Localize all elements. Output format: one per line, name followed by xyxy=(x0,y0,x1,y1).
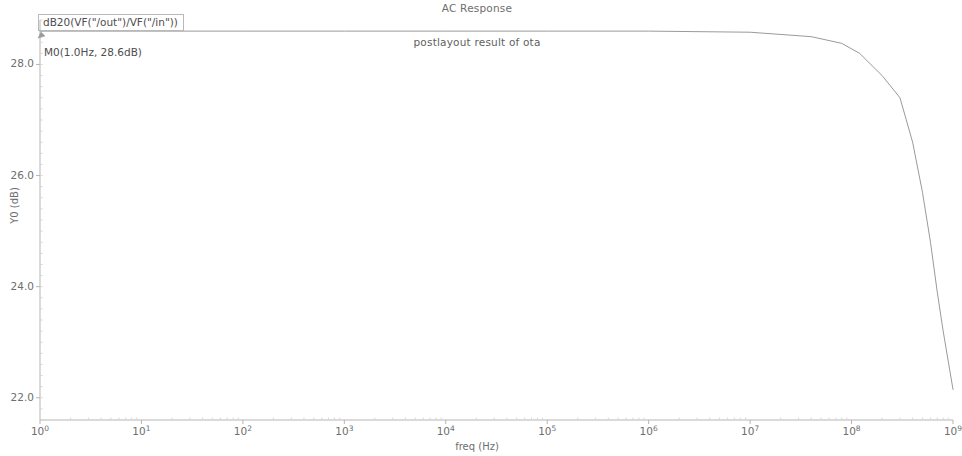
x-axis-title: freq (Hz) xyxy=(0,441,954,452)
x-tick-exponent: 6 xyxy=(653,424,658,433)
x-tick-mantissa: 10 xyxy=(437,425,450,437)
trace-line[interactable] xyxy=(40,31,953,389)
x-tick-exponent: 4 xyxy=(450,424,455,433)
x-tick-mantissa: 10 xyxy=(132,425,145,437)
x-tick-label: 106 xyxy=(640,425,658,437)
x-tick-label: 107 xyxy=(741,425,759,437)
x-tick-label: 103 xyxy=(335,425,353,437)
marker-m0-label[interactable]: M0(1.0Hz, 28.6dB) xyxy=(44,46,142,58)
x-tick-label: 101 xyxy=(132,425,150,437)
legend-label: dB20(VF("/out")/VF("/in")) xyxy=(43,16,178,28)
x-tick-mantissa: 10 xyxy=(234,425,247,437)
y-tick-label: 22.0 xyxy=(0,391,34,403)
x-tick-mantissa: 10 xyxy=(944,425,957,437)
x-tick-mantissa: 10 xyxy=(31,425,44,437)
x-tick-label: 102 xyxy=(234,425,252,437)
x-tick-exponent: 2 xyxy=(247,424,252,433)
legend-entry-trace[interactable]: dB20(VF("/out")/VF("/in")) xyxy=(38,14,184,31)
x-tick-mantissa: 10 xyxy=(335,425,348,437)
x-tick-exponent: 9 xyxy=(957,424,962,433)
x-tick-label: 100 xyxy=(31,425,49,437)
x-tick-exponent: 3 xyxy=(349,424,354,433)
y-tick-label: 24.0 xyxy=(0,280,34,292)
y-tick-label: 28.0 xyxy=(0,57,34,69)
y-tick-label: 26.0 xyxy=(0,169,34,181)
x-tick-mantissa: 10 xyxy=(538,425,551,437)
x-tick-mantissa: 10 xyxy=(741,425,754,437)
x-tick-exponent: 7 xyxy=(754,424,759,433)
x-tick-label: 108 xyxy=(842,425,860,437)
x-tick-label: 104 xyxy=(437,425,455,437)
x-tick-exponent: 0 xyxy=(44,424,49,433)
x-tick-exponent: 8 xyxy=(856,424,861,433)
x-tick-mantissa: 10 xyxy=(842,425,855,437)
x-tick-label: 105 xyxy=(538,425,556,437)
x-tick-exponent: 5 xyxy=(552,424,557,433)
y-axis-title: Y0 (dB) xyxy=(9,176,20,236)
x-tick-label: 109 xyxy=(944,425,962,437)
marker-m0-arrow[interactable] xyxy=(38,32,45,38)
x-tick-mantissa: 10 xyxy=(640,425,653,437)
x-tick-exponent: 1 xyxy=(146,424,151,433)
